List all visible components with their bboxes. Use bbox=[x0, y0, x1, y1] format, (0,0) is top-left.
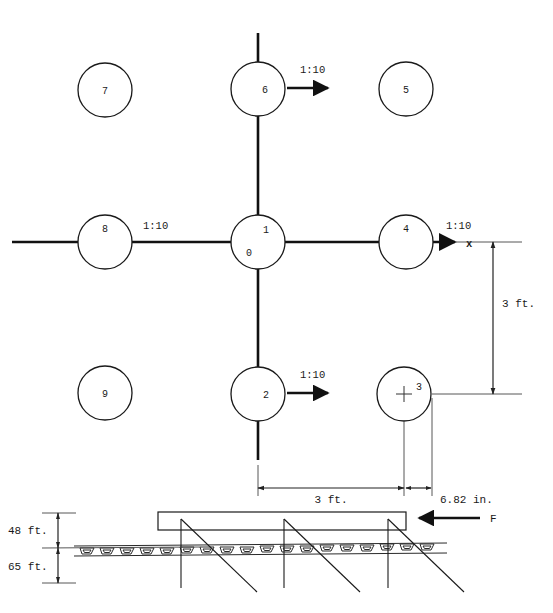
pile-circle-1[interactable] bbox=[231, 215, 285, 269]
pile-label-8: 8 bbox=[102, 224, 108, 235]
hdim-label-3ft: 3 ft. bbox=[314, 494, 347, 506]
vdim-label-3ft: 3 ft. bbox=[502, 298, 535, 310]
elev-label-65ft: 65 ft. bbox=[8, 561, 48, 573]
applied-force-annotation: F bbox=[419, 513, 497, 525]
pile-layout-diagram: x 7 6 5 8 1 0 4 9 2 3 1:10 1:10 1:10 bbox=[0, 0, 553, 613]
batter-label-pile8: 1:10 bbox=[143, 220, 168, 232]
force-label-F: F bbox=[490, 513, 497, 525]
origin-label-0: 0 bbox=[246, 248, 252, 259]
batter-label-pile4: 1:10 bbox=[446, 220, 471, 232]
pile-circle-6[interactable] bbox=[231, 62, 285, 116]
elevation-section bbox=[74, 512, 464, 592]
elev-ext-mid bbox=[42, 547, 200, 548]
diagram-canvas: x 7 6 5 8 1 0 4 9 2 3 1:10 1:10 1:10 bbox=[0, 0, 553, 613]
pile-circle-2[interactable] bbox=[231, 367, 285, 421]
pile-label-9: 9 bbox=[102, 389, 108, 400]
pile-cap-beam bbox=[158, 512, 406, 530]
pile-label-5: 5 bbox=[403, 85, 409, 96]
pile-label-7: 7 bbox=[102, 86, 108, 97]
pile-label-3: 3 bbox=[416, 382, 422, 393]
batter-label-pile6: 1:10 bbox=[300, 64, 325, 76]
elev-label-48ft: 48 ft. bbox=[8, 525, 48, 537]
pile-label-6: 6 bbox=[262, 85, 268, 96]
batter-label-pile2: 1:10 bbox=[300, 369, 325, 381]
horizontal-dimension-group: 3 ft. 6.82 in. bbox=[258, 398, 493, 506]
pile-label-1: 1 bbox=[263, 225, 269, 236]
pile-label-2: 2 bbox=[263, 390, 269, 401]
x-axis-label: x bbox=[466, 238, 473, 250]
batter-pile-3 bbox=[388, 519, 464, 592]
hdim-label-offset: 6.82 in. bbox=[440, 494, 493, 506]
vertical-dimension-3ft: 3 ft. bbox=[432, 242, 535, 394]
pile-group: 7 6 5 8 1 0 4 9 2 3 bbox=[78, 62, 433, 421]
pile-label-4: 4 bbox=[403, 224, 409, 235]
